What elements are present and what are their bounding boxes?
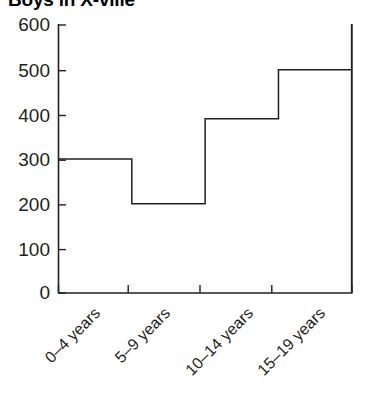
- x-axis-tick-label-group: 0–4 years 5–9 years 10–14 years 15–19 ye…: [0, 0, 387, 399]
- x-tick-label-15-19-years: 15–19 years: [210, 305, 329, 399]
- chart-figure: Boys in X-ville 600: [0, 0, 387, 399]
